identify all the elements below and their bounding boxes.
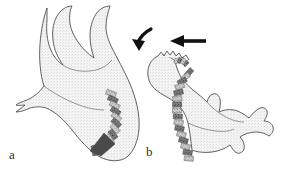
curved-rotation-arrow [132,29,151,51]
panel-label-b: b [146,145,153,158]
vertebra [183,149,193,155]
vertebra [184,156,194,162]
vertebra [176,131,186,138]
panel-label-a: a [9,148,15,161]
straight-force-arrow [170,35,206,47]
vertebra [172,95,182,101]
figure-panel-container: a b [0,0,285,171]
vertebra [172,102,181,107]
vertebra [174,119,184,125]
vertebra [172,108,181,113]
vertebra [174,125,184,132]
figure-illustration [0,0,285,171]
panel-b-group [132,29,273,161]
vertebra [173,114,183,120]
vertebra [178,137,188,144]
panel-a-group [16,6,139,161]
vertebra [180,143,190,150]
panel-a-body-silhouette [16,6,139,161]
panel-b-body-silhouette [148,55,273,154]
